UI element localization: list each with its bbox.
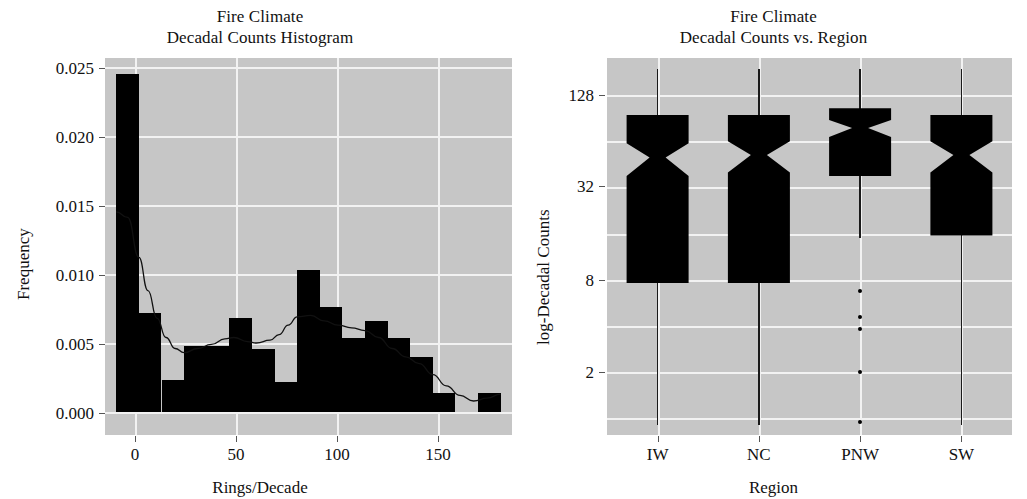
box-xtick-nc: NC [719, 445, 799, 465]
hist-xtickmark-0 [135, 436, 136, 442]
histogram-title: Fire Climate Decadal Counts Histogram [0, 6, 520, 48]
boxplot-gridline-h [607, 372, 1012, 374]
boxplot-gridline-h [607, 418, 1012, 420]
boxplot-panel: Fire Climate Decadal Counts vs. Region 1… [520, 0, 1027, 499]
box-xtick-iw: IW [618, 445, 698, 465]
boxplot-gridline-h [607, 141, 1012, 143]
box-xaxis-title: Region [520, 478, 1027, 498]
hist-xtick-50: 50 [206, 445, 266, 465]
hist-ytick-0.000: 0.000 [20, 404, 94, 424]
boxplot-whisker [961, 69, 963, 426]
boxplot-plot-area [607, 58, 1012, 435]
histogram-title-line2: Decadal Counts Histogram [0, 27, 520, 48]
hist-xtick-150: 150 [408, 445, 468, 465]
density-curve-path [116, 212, 500, 401]
boxplot-title-line1: Fire Climate [520, 6, 1027, 27]
boxplot-gridline-h [607, 280, 1012, 282]
hist-xtick-0: 0 [105, 445, 165, 465]
box-ytickmark-2 [599, 372, 605, 373]
box-yaxis-title: log-Decadal Counts [534, 210, 554, 346]
box-xtickmark [961, 436, 962, 442]
hist-xtickmark-150 [438, 436, 439, 442]
box-xtick-sw: SW [921, 445, 1001, 465]
boxplot-title-line2: Decadal Counts vs. Region [520, 27, 1027, 48]
boxplot-gridline-h [607, 326, 1012, 328]
boxplot-title: Fire Climate Decadal Counts vs. Region [520, 6, 1027, 48]
boxplot-gridline-h [607, 95, 1012, 97]
boxplot-outlier [858, 315, 862, 319]
hist-xtickmark-50 [236, 436, 237, 442]
boxplot-whisker [657, 69, 659, 426]
figure-root: Fire Climate Decadal Counts Histogram 0.… [0, 0, 1027, 499]
histogram-density-curve [105, 58, 512, 435]
boxplot-gridline-h [607, 234, 1012, 236]
boxplot-outlier [858, 420, 862, 424]
hist-xaxis-title: Rings/Decade [0, 478, 520, 498]
hist-xtickmark-100 [337, 436, 338, 442]
box-ytick-2: 2 [540, 363, 594, 383]
hist-yaxis-title: Frequency [14, 228, 34, 300]
box-ytick-128: 128 [540, 86, 594, 106]
box-ytick-32: 32 [540, 177, 594, 197]
boxplot-gridline-h [607, 187, 1012, 189]
box-ytickmark-128 [599, 95, 605, 96]
hist-ytick-0.025: 0.025 [20, 59, 94, 79]
hist-ytick-0.005: 0.005 [20, 335, 94, 355]
hist-ytick-0.020: 0.020 [20, 128, 94, 148]
box-xtick-pnw: PNW [820, 445, 900, 465]
boxplot-whisker [758, 69, 760, 426]
boxplot-whisker [859, 69, 861, 238]
box-xtickmark [860, 436, 861, 442]
hist-ytick-0.015: 0.015 [20, 197, 94, 217]
histogram-plot-area [105, 58, 512, 435]
box-ytickmark-8 [599, 280, 605, 281]
histogram-panel: Fire Climate Decadal Counts Histogram 0.… [0, 0, 520, 499]
box-xtickmark [658, 436, 659, 442]
histogram-title-line1: Fire Climate [0, 6, 520, 27]
box-xtickmark [759, 436, 760, 442]
hist-xtick-100: 100 [307, 445, 367, 465]
box-ytickmark-32 [599, 186, 605, 187]
boxplot-outlier [858, 289, 862, 293]
